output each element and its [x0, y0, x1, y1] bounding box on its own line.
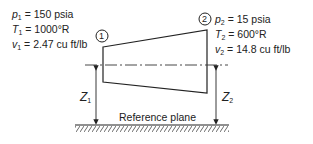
state1-pressure: p1 = 150 psia: [12, 8, 73, 24]
state1-volume: v1 = 2.47 cu ft/lb: [12, 38, 87, 54]
reference-plane-label: Reference plane: [119, 111, 196, 123]
state2-volume: v2 = 14.8 cu ft/lb: [215, 43, 290, 59]
state1-temperature: T1 = 1000°R: [12, 23, 69, 39]
state2-temperature: T2 = 600°R: [215, 28, 267, 44]
state2-pressure: p2 = 15 psia: [215, 13, 271, 29]
state1-marker-label: 1: [99, 30, 104, 42]
state2-marker-label: 2: [202, 13, 207, 25]
pipe-section: [103, 30, 207, 93]
ground-hatching: [75, 126, 229, 132]
z2-label: Z2: [222, 90, 233, 104]
z1-label: Z1: [80, 90, 91, 104]
